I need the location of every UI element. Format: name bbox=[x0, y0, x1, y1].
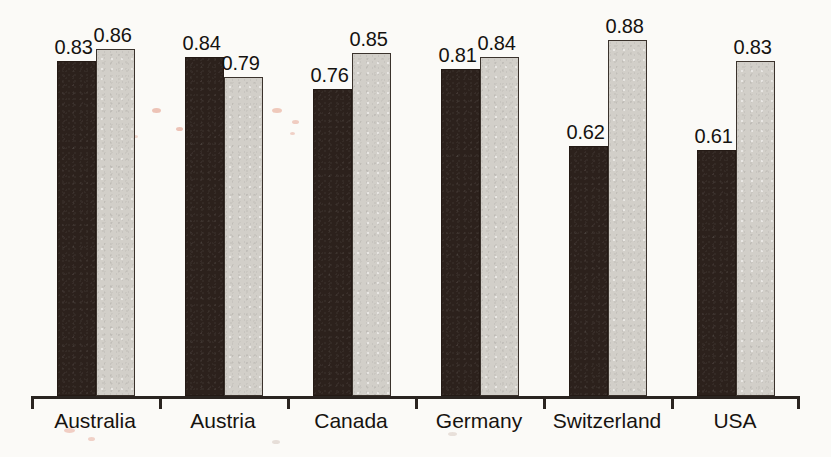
category-label-switzerland: Switzerland bbox=[543, 409, 671, 433]
bar-austria-series1 bbox=[185, 57, 224, 396]
value-label-usa-series1: 0.61 bbox=[695, 125, 733, 148]
bar-usa-series2 bbox=[736, 61, 775, 396]
bar-canada-series1 bbox=[313, 89, 352, 396]
bar-germany-series1 bbox=[441, 69, 480, 396]
value-label-usa-series2: 0.83 bbox=[734, 36, 772, 59]
value-label-australia-series1: 0.83 bbox=[55, 36, 93, 59]
plot-area: 0.830.860.840.790.760.850.810.840.620.88… bbox=[0, 0, 831, 400]
axis-tick bbox=[543, 396, 546, 409]
value-label-switzerland-series1: 0.62 bbox=[567, 121, 605, 144]
value-label-germany-series2: 0.84 bbox=[478, 32, 516, 55]
value-label-austria-series2: 0.79 bbox=[222, 52, 260, 75]
scan-speck bbox=[272, 440, 280, 444]
axis-tick bbox=[797, 396, 800, 409]
category-label-germany: Germany bbox=[415, 409, 543, 433]
bar-australia-series1 bbox=[57, 61, 96, 396]
bar-canada-series2 bbox=[352, 53, 391, 396]
axis-tick bbox=[671, 396, 674, 409]
value-label-canada-series1: 0.76 bbox=[311, 64, 349, 87]
value-label-switzerland-series2: 0.88 bbox=[606, 15, 644, 38]
axis-tick bbox=[287, 396, 290, 409]
bar-austria-series2 bbox=[224, 77, 263, 396]
axis-tick bbox=[159, 396, 162, 409]
bar-switzerland-series1 bbox=[569, 146, 608, 396]
category-label-canada: Canada bbox=[287, 409, 415, 433]
category-label-usa: USA bbox=[671, 409, 799, 433]
value-label-australia-series2: 0.86 bbox=[94, 24, 132, 47]
axis-tick bbox=[31, 396, 34, 409]
value-label-canada-series2: 0.85 bbox=[350, 28, 388, 51]
value-label-germany-series1: 0.81 bbox=[439, 44, 477, 67]
bar-germany-series2 bbox=[480, 57, 519, 396]
bar-usa-series1 bbox=[697, 150, 736, 396]
bar-chart: 0.830.860.840.790.760.850.810.840.620.88… bbox=[0, 0, 831, 457]
category-label-australia: Australia bbox=[31, 409, 159, 433]
category-label-austria: Austria bbox=[159, 409, 287, 433]
scan-speck bbox=[88, 437, 95, 441]
bar-australia-series2 bbox=[96, 49, 135, 396]
axis-tick bbox=[415, 396, 418, 409]
value-label-austria-series1: 0.84 bbox=[183, 32, 221, 55]
bar-switzerland-series2 bbox=[608, 40, 647, 396]
